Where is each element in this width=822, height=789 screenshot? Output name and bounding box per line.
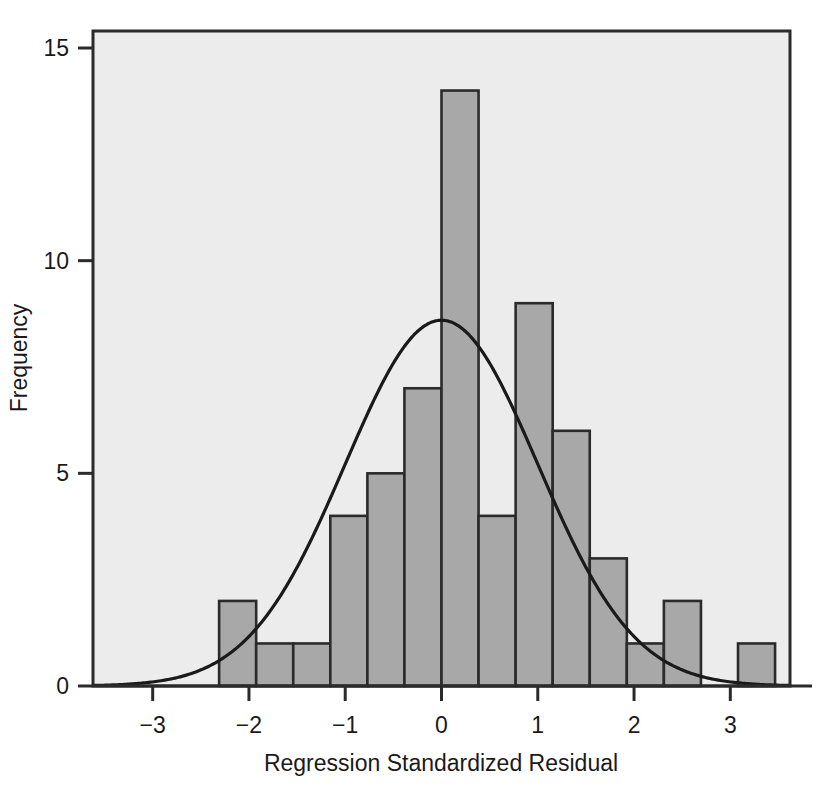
histogram-bar xyxy=(479,516,516,686)
x-axis-tick-label: −2 xyxy=(236,712,262,738)
histogram-bar xyxy=(738,643,775,686)
y-axis-tick-label: 10 xyxy=(43,248,69,274)
x-axis-tick-label: 2 xyxy=(628,712,641,738)
y-axis-tick-label: 0 xyxy=(56,673,69,699)
histogram-bar xyxy=(330,516,367,686)
histogram-bar xyxy=(516,303,553,686)
y-axis-tick-label: 5 xyxy=(56,460,69,486)
x-axis-tick-label: 1 xyxy=(531,712,544,738)
y-axis-title: Frequency xyxy=(6,303,32,412)
histogram-bar xyxy=(627,643,664,686)
x-axis-tick-label: −3 xyxy=(140,712,166,738)
x-axis-tick-label: 3 xyxy=(724,712,737,738)
x-axis-tick-label: 0 xyxy=(435,712,448,738)
histogram-chart: 051015 −3−2−10123 Regression Standardize… xyxy=(0,0,822,789)
histogram-bar xyxy=(553,431,590,686)
y-axis-tick-label: 15 xyxy=(43,35,69,61)
histogram-bar xyxy=(219,601,256,686)
histogram-bar xyxy=(367,473,404,686)
histogram-bar xyxy=(293,643,330,686)
x-axis-title: Regression Standardized Residual xyxy=(264,750,618,776)
chart-canvas: 051015 −3−2−10123 Regression Standardize… xyxy=(0,0,822,789)
histogram-bar xyxy=(256,643,293,686)
x-axis-tick-label: −1 xyxy=(332,712,358,738)
histogram-bar xyxy=(404,388,441,686)
histogram-bar xyxy=(442,91,479,686)
